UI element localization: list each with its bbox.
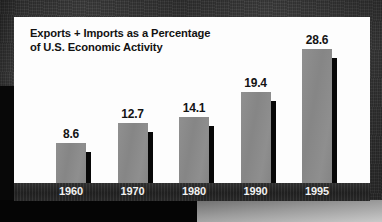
- background-light-block-bottom-right: [197, 200, 382, 222]
- x-axis-band: 19601970198019901995: [14, 183, 370, 201]
- bar-value-label-1995: 28.6: [287, 33, 347, 47]
- axis-tick-label-1970: 1970: [103, 185, 163, 197]
- bar-shadow: [332, 58, 337, 183]
- axis-tick-label-1980: 1980: [164, 185, 224, 197]
- axis-tick-label-1960: 1960: [41, 185, 101, 197]
- screenshot-root: Exports + Imports as a Percentage of U.S…: [0, 0, 382, 222]
- plot-area: 8.612.714.119.428.6: [14, 17, 370, 183]
- axis-tick-label-1995: 1995: [287, 185, 347, 197]
- axis-tick-label-1990: 1990: [226, 185, 286, 197]
- background-black-block-bottom-left: [0, 200, 197, 222]
- chart-panel: Exports + Imports as a Percentage of U.S…: [14, 17, 370, 183]
- bar-1995[interactable]: [302, 49, 332, 183]
- bar-group: 28.6: [14, 17, 370, 183]
